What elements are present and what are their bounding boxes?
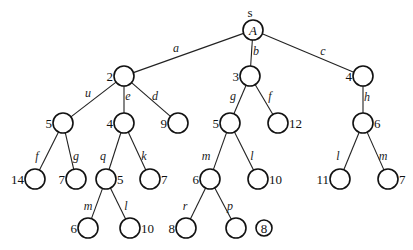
- node-cost-label: 8: [169, 221, 176, 236]
- node-cost-label: 7: [399, 172, 406, 187]
- tree-edge: [213, 132, 226, 169]
- edge-label: q: [100, 149, 106, 163]
- tree-node: [168, 113, 188, 133]
- tree-node: [96, 169, 116, 189]
- edge-label: d: [152, 89, 159, 103]
- tree-node: [268, 113, 288, 133]
- tree-node: [200, 169, 220, 189]
- node-cost-label: 7: [59, 172, 66, 187]
- tree-node: [378, 169, 398, 189]
- node-cost-label: 5: [213, 116, 220, 131]
- tree-edge: [110, 188, 125, 219]
- edge-label: g: [73, 149, 79, 163]
- tree-node: [176, 218, 196, 238]
- node-cost-label: 11: [316, 172, 329, 187]
- tree-node: [248, 169, 268, 189]
- tree-edge: [132, 83, 171, 117]
- tree-node: [66, 169, 86, 189]
- node-cost-label: 4: [107, 116, 114, 131]
- node-cost-label: 5: [117, 172, 124, 187]
- tree-node: [120, 218, 140, 238]
- tree-edge: [262, 34, 354, 72]
- tree-edge: [109, 133, 121, 170]
- tree-nodes: A23454951261475761011761088: [11, 20, 406, 238]
- tree-node: [353, 113, 373, 133]
- edge-label: f: [35, 149, 40, 163]
- node-cost-label: 6: [71, 221, 78, 236]
- node-cost-label: 7: [161, 172, 168, 187]
- edge-label: a: [173, 41, 179, 55]
- node-cost-label: 6: [374, 116, 381, 131]
- node-cost-label: 5: [46, 116, 53, 131]
- tree-node: [25, 169, 45, 189]
- edge-label: e: [125, 89, 131, 103]
- edge-label: l: [336, 149, 340, 163]
- edge-label: k: [141, 149, 147, 163]
- node-cost-label: 12: [289, 116, 302, 131]
- tree-edge: [344, 132, 359, 169]
- node-inner-label: 8: [261, 221, 268, 236]
- edge-label: m: [202, 149, 211, 163]
- edge-label: p: [226, 199, 233, 213]
- tree-node: [226, 218, 246, 238]
- edge-label: r: [183, 199, 188, 213]
- edge-label: b: [253, 44, 259, 58]
- node-cost-label: 2: [107, 69, 114, 84]
- node-cost-label: 14: [11, 172, 25, 187]
- node-cost-label: 6: [193, 172, 200, 187]
- tree-edge: [91, 188, 102, 218]
- edge-label: m: [379, 149, 388, 163]
- tree-node: [114, 113, 134, 133]
- node-cost-label: 3: [233, 69, 240, 84]
- node-cost-label: 10: [141, 221, 154, 236]
- tree-edge: [39, 132, 58, 170]
- node-cost-label: 10: [269, 172, 282, 187]
- edge-label: h: [364, 90, 370, 104]
- tree-node: [78, 218, 98, 238]
- root-top-label: s: [247, 5, 252, 20]
- edge-label: g: [230, 89, 236, 103]
- search-tree-diagram: abcuedgfhfgqkmllmmlrp A23454951261475761…: [0, 0, 413, 250]
- tree-node: [330, 169, 350, 189]
- tree-node: [53, 113, 73, 133]
- edge-label: l: [250, 149, 254, 163]
- node-inner-label: A: [248, 23, 257, 38]
- edge-label: m: [84, 199, 93, 213]
- tree-node: [114, 66, 134, 86]
- tree-edge: [71, 82, 116, 117]
- tree-node: [353, 66, 373, 86]
- node-cost-label: 9: [161, 116, 168, 131]
- tree-edge: [190, 188, 205, 219]
- edge-label: c: [320, 44, 326, 58]
- tree-node: [240, 66, 260, 86]
- node-cost-label: 4: [346, 69, 353, 84]
- tree-node: [140, 169, 160, 189]
- edge-label: u: [85, 86, 91, 100]
- tree-edge: [133, 33, 243, 72]
- edge-label: f: [268, 89, 273, 103]
- edge-label: l: [124, 199, 128, 213]
- tree-node: [220, 113, 240, 133]
